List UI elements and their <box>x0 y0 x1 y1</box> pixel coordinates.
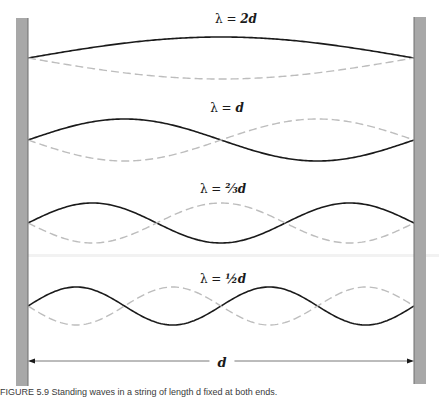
mode-label-4: λ = ½d <box>200 273 246 285</box>
lambda-symbol: λ = <box>215 12 240 26</box>
standing-wave-solid-3 <box>28 203 414 243</box>
mode-label-1: λ = 2d <box>215 13 257 25</box>
length-label: d <box>209 356 234 369</box>
scan-streak <box>20 254 439 257</box>
standing-wave-dashed-4 <box>28 287 414 325</box>
wavelength-value: d <box>235 101 243 115</box>
wavelength-value: 2d <box>240 12 257 26</box>
standing-wave-dashed-3 <box>28 203 414 243</box>
lambda-symbol: λ = <box>210 101 235 115</box>
right-wall <box>414 17 426 384</box>
standing-wave-dashed-1 <box>28 58 414 79</box>
mode-label-2: λ = d <box>210 102 244 114</box>
wavelength-value: ½d <box>225 272 246 286</box>
lambda-symbol: λ = <box>200 182 225 196</box>
mode-label-3: λ = ⅔d <box>200 183 246 195</box>
arrowhead-left-icon <box>28 359 35 364</box>
standing-wave-solid-1 <box>28 37 414 58</box>
wavelength-value: ⅔d <box>225 182 246 196</box>
arrowhead-right-icon <box>407 359 414 364</box>
walls-layer <box>16 17 426 386</box>
left-wall <box>16 18 28 386</box>
figure-caption: FIGURE 5.9 Standing waves in a string of… <box>0 388 277 397</box>
standing-wave-dashed-2 <box>28 119 414 161</box>
lambda-symbol: λ = <box>200 272 225 286</box>
